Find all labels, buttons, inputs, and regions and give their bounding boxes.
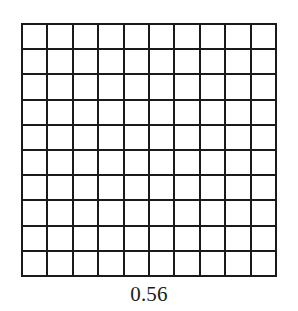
grid-cell: [150, 126, 173, 149]
grid-cell: [175, 201, 198, 224]
grid-cell: [74, 25, 97, 48]
grid-cell: [99, 25, 122, 48]
grid-cell: [150, 227, 173, 250]
grid-cell: [175, 101, 198, 124]
grid-cell: [201, 176, 224, 199]
grid-cell: [175, 126, 198, 149]
hundredths-grid: [21, 23, 277, 277]
grid-cell: [150, 201, 173, 224]
grid-cell: [48, 227, 71, 250]
grid-cell: [201, 201, 224, 224]
grid-cell: [150, 101, 173, 124]
grid-cell: [201, 126, 224, 149]
grid-cell: [125, 227, 148, 250]
grid-cell: [23, 101, 46, 124]
grid-cell: [226, 201, 249, 224]
grid-cell: [252, 126, 275, 149]
grid-cell: [201, 227, 224, 250]
grid-cell: [99, 126, 122, 149]
grid-cell: [150, 252, 173, 275]
grid-cell: [23, 227, 46, 250]
grid-cell: [99, 176, 122, 199]
grid-cell: [201, 151, 224, 174]
grid-cell: [48, 151, 71, 174]
grid-cell: [150, 151, 173, 174]
grid-cell: [252, 201, 275, 224]
grid-cell: [226, 227, 249, 250]
grid-cell: [125, 50, 148, 73]
grid-cell: [48, 101, 71, 124]
grid-cell: [175, 50, 198, 73]
grid-cell: [252, 75, 275, 98]
grid-cell: [23, 75, 46, 98]
grid-cell: [252, 227, 275, 250]
grid-cell: [226, 151, 249, 174]
grid-cell: [252, 252, 275, 275]
grid-cell: [226, 75, 249, 98]
grid-cell: [99, 201, 122, 224]
grid-cell: [252, 151, 275, 174]
grid-cell: [125, 25, 148, 48]
grid-cell: [150, 50, 173, 73]
grid-cell: [23, 151, 46, 174]
grid-cell: [23, 50, 46, 73]
grid-cell: [252, 101, 275, 124]
grid-cell: [201, 75, 224, 98]
grid-cell: [150, 75, 173, 98]
grid-cell: [48, 126, 71, 149]
grid-cell: [23, 201, 46, 224]
grid-cell: [201, 50, 224, 73]
grid-cell: [125, 201, 148, 224]
grid-cell: [23, 25, 46, 48]
grid-cell: [74, 227, 97, 250]
grid-cell: [252, 50, 275, 73]
grid-cell: [201, 25, 224, 48]
grid-cell: [99, 50, 122, 73]
grid-cell: [74, 50, 97, 73]
grid-cell: [175, 75, 198, 98]
grid-cell: [175, 151, 198, 174]
grid-cell: [23, 176, 46, 199]
grid-cell: [201, 101, 224, 124]
grid-cell: [74, 201, 97, 224]
grid-cell: [150, 176, 173, 199]
grid-cell: [99, 227, 122, 250]
grid-cell: [125, 252, 148, 275]
grid-cell: [150, 25, 173, 48]
grid-cell: [99, 75, 122, 98]
grid-cell: [201, 252, 224, 275]
grid-cell: [74, 75, 97, 98]
grid-cell: [252, 176, 275, 199]
grid-cell: [125, 101, 148, 124]
grid-cell: [125, 75, 148, 98]
grid-cell: [252, 25, 275, 48]
grid-cell: [48, 50, 71, 73]
grid-cell: [48, 75, 71, 98]
grid-cell: [226, 101, 249, 124]
grid-cell: [175, 252, 198, 275]
grid-caption: 0.56: [0, 281, 298, 307]
grid-cell: [226, 176, 249, 199]
grid-cell: [74, 176, 97, 199]
grid-cell: [48, 25, 71, 48]
figure-root: 0.56: [0, 0, 298, 311]
grid-cell: [125, 176, 148, 199]
grid-cell: [99, 252, 122, 275]
grid-cell: [175, 25, 198, 48]
grid-cell: [125, 126, 148, 149]
grid-cell: [74, 101, 97, 124]
grid-cell: [226, 126, 249, 149]
grid-cell: [226, 252, 249, 275]
grid-cell: [175, 176, 198, 199]
grid-cell: [226, 25, 249, 48]
grid-cell: [74, 252, 97, 275]
grid-cell: [23, 126, 46, 149]
grid-cell: [23, 252, 46, 275]
grid-cell: [226, 50, 249, 73]
grid-cell: [48, 201, 71, 224]
grid-cell: [99, 101, 122, 124]
grid-cell: [74, 151, 97, 174]
grid-cell: [74, 126, 97, 149]
grid-cell: [175, 227, 198, 250]
grid-cell: [125, 151, 148, 174]
